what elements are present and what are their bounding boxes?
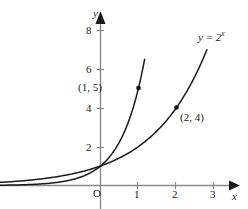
- x-tick-label-3: 3: [210, 189, 216, 200]
- x-axis-arrowhead: [229, 181, 240, 191]
- x-tick-label-1: 1: [134, 189, 140, 200]
- data-point-1-5: [136, 86, 141, 91]
- x-axis-label: x: [232, 191, 237, 202]
- curve-5-to-the-x: [0, 59, 145, 185]
- exponential-functions-figure: 8 6 4 2 O 1 2 3 x y (1, 5) (2, 4) y = 2x: [0, 0, 248, 209]
- curve-equation-exponent: x: [221, 29, 224, 38]
- curve-equation-label: y = 2x: [198, 30, 225, 43]
- y-axis-label: y: [93, 8, 98, 19]
- y-tick-label-2: 2: [86, 142, 92, 153]
- data-point-2-4: [174, 105, 179, 110]
- curve-equation-base: y = 2: [198, 31, 221, 43]
- point-label-2-4: (2, 4): [180, 112, 204, 123]
- x-tick-label-2: 2: [172, 189, 178, 200]
- y-tick-label-6: 6: [86, 64, 92, 75]
- point-label-1-5: (1, 5): [78, 82, 102, 93]
- y-tick-label-8: 8: [86, 25, 92, 36]
- y-tick-label-4: 4: [86, 103, 92, 114]
- origin-label: O: [93, 188, 101, 199]
